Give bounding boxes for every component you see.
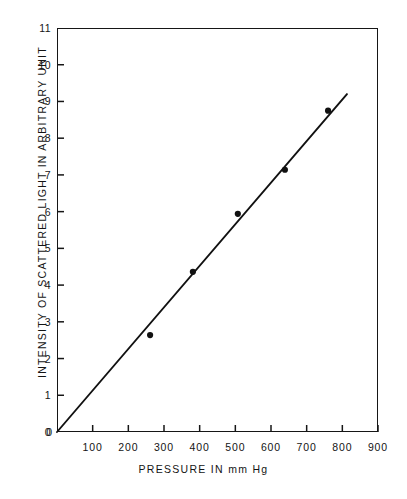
x-axis-title: PRESSURE IN mm Hg <box>0 463 407 475</box>
x-tick-label: 900 <box>356 442 400 453</box>
x-tick-label: 0 <box>33 427 53 438</box>
plot-frame <box>57 28 378 432</box>
y-tick-label: 11 <box>25 23 51 34</box>
chart-figure: 01234567891011 0100200300400500600700800… <box>0 0 407 499</box>
y-axis-title: INTENSITY OF SCATTERED LIGHT IN ARBITRAR… <box>36 78 48 378</box>
y-tick-label: 1 <box>25 390 51 401</box>
